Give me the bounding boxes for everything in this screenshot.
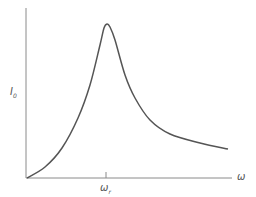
tick-label-sub: r xyxy=(108,188,110,195)
resonance-curve xyxy=(27,24,228,178)
x-tick-label-resonance: ωr xyxy=(100,183,111,195)
x-axis-label: ω xyxy=(237,172,245,182)
y-axis-label-sub: 0 xyxy=(13,92,17,99)
x-axis-label-text: ω xyxy=(237,171,245,182)
y-axis-label: I0 xyxy=(10,87,17,99)
resonance-chart xyxy=(0,0,256,197)
